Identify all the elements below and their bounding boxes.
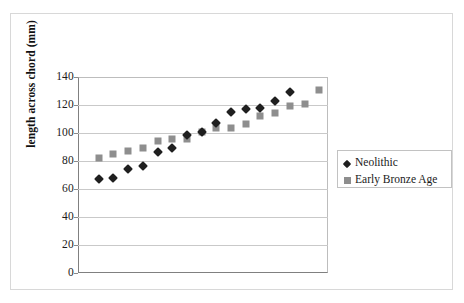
figure-canvas: length across chord (mm) 140120100806040… [0, 0, 464, 303]
gridline [78, 217, 328, 218]
data-point-early-bronze-age [139, 144, 146, 151]
data-point-early-bronze-age [169, 135, 176, 142]
legend-label-neolithic: Neolithic [355, 157, 398, 169]
data-point-early-bronze-age [125, 147, 132, 154]
data-point-early-bronze-age [95, 155, 102, 162]
data-point-early-bronze-age [286, 103, 293, 110]
plot-region [78, 77, 328, 273]
legend-item-early-bronze-age: Early Bronze Age [343, 172, 447, 188]
gridline [78, 161, 328, 162]
gridline [78, 189, 328, 190]
data-point-early-bronze-age [257, 113, 264, 120]
chart-legend: Neolithic Early Bronze Age [337, 150, 452, 188]
legend-item-neolithic: Neolithic [343, 155, 447, 171]
y-tick-mark [74, 273, 78, 274]
data-point-early-bronze-age [272, 109, 279, 116]
y-tick-label: 140 [34, 71, 74, 83]
y-tick-label: 100 [34, 127, 74, 139]
y-axis-tick-labels: 140120100806040200 [30, 77, 74, 273]
y-tick-label: 120 [34, 99, 74, 111]
legend-diamond-icon [343, 159, 352, 168]
data-point-early-bronze-age [154, 137, 161, 144]
legend-label-early-bronze-age: Early Bronze Age [355, 174, 437, 186]
data-point-early-bronze-age [316, 86, 323, 93]
data-point-early-bronze-age [228, 125, 235, 132]
data-point-early-bronze-age [242, 120, 249, 127]
y-tick-label: 60 [34, 183, 74, 195]
data-point-early-bronze-age [301, 100, 308, 107]
y-tick-label: 80 [34, 155, 74, 167]
legend-square-icon [343, 176, 352, 185]
y-tick-label: 0 [34, 267, 74, 279]
y-tick-label: 20 [34, 239, 74, 251]
data-point-early-bronze-age [110, 151, 117, 158]
gridline [78, 245, 328, 246]
y-tick-label: 40 [34, 211, 74, 223]
